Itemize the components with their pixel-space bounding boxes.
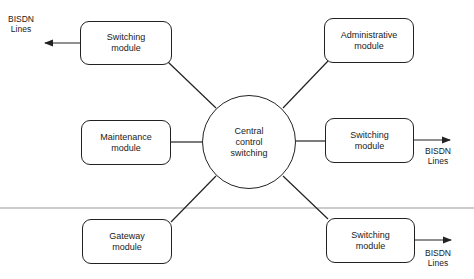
module-label: module	[355, 141, 385, 152]
switching-module-top-left[interactable]: Switching module	[80, 21, 172, 65]
module-label: Switching	[350, 130, 389, 141]
center-label: Central	[234, 126, 263, 137]
label-line: Lines	[421, 156, 455, 166]
module-label: Switching	[107, 32, 146, 43]
maintenance-module[interactable]: Maintenance module	[81, 120, 171, 165]
bisdn-lines-label-top-left: BISDN Lines	[6, 14, 36, 34]
module-label: module	[356, 241, 386, 252]
switching-module-bottom-right[interactable]: Switching module	[326, 218, 415, 263]
module-label: Administrative	[341, 30, 398, 41]
module-label: module	[354, 41, 384, 52]
gateway-module[interactable]: Gateway module	[82, 219, 172, 264]
module-label: Maintenance	[100, 132, 152, 143]
module-label: module	[112, 242, 142, 253]
connector-gateway	[171, 176, 216, 222]
label-line: Lines	[421, 258, 455, 268]
module-label: module	[111, 43, 141, 54]
label-line: BISDN	[421, 146, 455, 156]
connector-switching-bottom-right	[283, 176, 328, 219]
label-line: BISDN	[6, 14, 36, 24]
module-label: Switching	[351, 230, 390, 241]
module-label: module	[111, 143, 141, 154]
label-line: BISDN	[421, 248, 455, 258]
connector-administrative	[283, 61, 328, 108]
administrative-module[interactable]: Administrative module	[324, 18, 414, 63]
bisdn-lines-label-right: BISDN Lines	[421, 146, 455, 166]
module-label: Gateway	[109, 231, 145, 242]
center-label: switching	[230, 148, 267, 159]
switching-module-right[interactable]: Switching module	[325, 118, 414, 163]
central-control-switching[interactable]: Central control switching	[202, 95, 296, 189]
label-line: Lines	[6, 24, 36, 34]
connector-switching-top-left	[168, 62, 216, 108]
center-label: control	[235, 137, 262, 148]
bisdn-lines-label-bottom-right: BISDN Lines	[421, 248, 455, 268]
